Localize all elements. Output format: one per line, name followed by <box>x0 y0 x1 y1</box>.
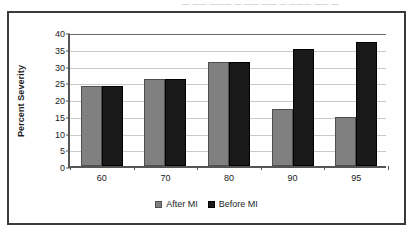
legend-entry: After MI <box>155 199 198 209</box>
legend-swatch-icon <box>208 201 215 208</box>
y-tick-label: 5 <box>60 146 65 156</box>
bar <box>208 62 229 166</box>
x-tick-label: 70 <box>160 173 170 183</box>
bar-group <box>324 34 388 166</box>
x-tick-mark <box>134 166 135 170</box>
y-tick-label: 20 <box>55 96 65 106</box>
bar <box>102 86 123 166</box>
bar <box>229 62 250 166</box>
x-tick-mark <box>388 166 389 170</box>
bar <box>272 109 293 166</box>
x-tick-label: 95 <box>351 173 361 183</box>
bar <box>81 86 102 166</box>
bar-group <box>261 34 325 166</box>
x-tick-mark <box>261 166 262 170</box>
legend-swatch-icon <box>155 201 162 208</box>
y-tick-label: 30 <box>55 63 65 73</box>
y-axis-title-label: Percent Severity <box>16 65 26 137</box>
bar-chart: Percent Severity 0510152025303540 607080… <box>9 13 404 223</box>
bar <box>144 79 165 166</box>
chart-figure-frame: Percent Severity 0510152025303540 607080… <box>7 11 406 225</box>
bars-layer <box>70 34 386 166</box>
y-tick-label: 0 <box>60 163 65 173</box>
plot-area: 0510152025303540 6070809095 <box>68 34 386 168</box>
y-tick-label: 35 <box>55 46 65 56</box>
bar-group <box>70 34 134 166</box>
bar-group <box>134 34 198 166</box>
bar <box>293 49 314 166</box>
scan-artifact-text: — —— ——— — —— —— — ——— —— — <box>182 0 415 7</box>
legend-entry: Before MI <box>208 199 258 209</box>
bar <box>165 79 186 166</box>
x-tick-label: 90 <box>288 173 298 183</box>
y-tick-label: 25 <box>55 79 65 89</box>
x-tick-mark <box>70 166 71 170</box>
x-tick-mark <box>324 166 325 170</box>
x-tick-label: 60 <box>97 173 107 183</box>
legend-label: Before MI <box>219 199 258 209</box>
y-tick-label: 10 <box>55 130 65 140</box>
x-tick-mark <box>197 166 198 170</box>
y-axis-title: Percent Severity <box>13 31 29 171</box>
bar <box>335 117 356 166</box>
legend-label: After MI <box>166 199 198 209</box>
bar <box>356 42 377 166</box>
bar-group <box>197 34 261 166</box>
chart-legend: After MIBefore MI <box>9 199 404 209</box>
y-tick-label: 40 <box>55 29 65 39</box>
y-tick-label: 15 <box>55 113 65 123</box>
x-tick-label: 80 <box>224 173 234 183</box>
